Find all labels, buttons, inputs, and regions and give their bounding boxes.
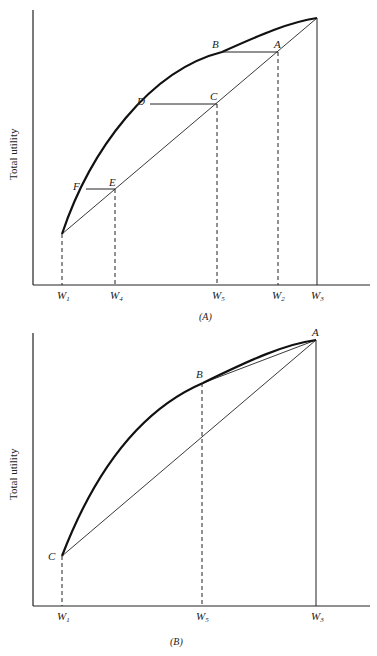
x-tick-w3: W3 bbox=[311, 610, 324, 624]
point-label-d: D bbox=[136, 95, 145, 107]
point-label-b: B bbox=[196, 368, 203, 380]
chord-line bbox=[62, 18, 317, 234]
point-label-e: E bbox=[108, 176, 116, 188]
x-tick-w2: W2 bbox=[272, 289, 285, 303]
chord-b-a bbox=[203, 340, 316, 383]
point-label-c: C bbox=[210, 90, 218, 102]
x-tick-w3: W3 bbox=[311, 289, 324, 303]
x-tick-w1: W1 bbox=[57, 289, 70, 303]
x-tick-w5: W5 bbox=[212, 289, 225, 303]
y-axis-label: Total utility bbox=[7, 448, 19, 500]
x-tick-w1: W1 bbox=[57, 610, 70, 624]
x-tick-w4: W4 bbox=[110, 289, 123, 303]
chord-c-a bbox=[62, 340, 316, 556]
panel-caption-a: (A) bbox=[199, 311, 212, 323]
panel-a: B A D C F E Total utility W1 W4 W5 W2 W3… bbox=[7, 10, 370, 323]
panel-caption-b: (B) bbox=[170, 636, 183, 648]
y-axis-label: Total utility bbox=[7, 128, 19, 180]
point-label-a: A bbox=[273, 38, 281, 50]
panel-b: A B C Total utility W1 W5 W3 (B) bbox=[7, 326, 370, 648]
point-label-a: A bbox=[311, 326, 319, 338]
utility-diagrams: B A D C F E Total utility W1 W4 W5 W2 W3… bbox=[0, 0, 377, 656]
point-label-f: F bbox=[72, 180, 80, 192]
x-tick-w5: W5 bbox=[196, 610, 209, 624]
point-label-c: C bbox=[48, 550, 56, 562]
point-label-b: B bbox=[212, 38, 219, 50]
